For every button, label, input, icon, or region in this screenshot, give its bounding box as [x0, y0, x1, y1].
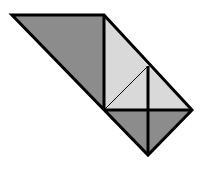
- tangram-diagram: [0, 0, 204, 171]
